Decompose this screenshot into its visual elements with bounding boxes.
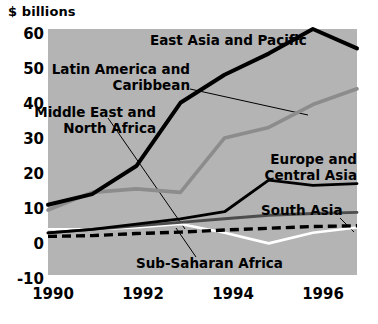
annotation-europe-line1: Europe and [212, 152, 357, 167]
annotation-east-asia-and-pacific: East Asia and Pacific [150, 33, 307, 48]
annotation-sub-saharan-africa: Sub-Saharan Africa [136, 256, 283, 271]
annotation-mena-line1: Middle East and [0, 105, 156, 120]
annotation-south-asia: South Asia [261, 203, 343, 218]
chart-container: $ billions 60 50 40 30 20 10 0 -10 1990 … [0, 0, 378, 324]
annotation-latin-america-line1: Latin America and [30, 62, 190, 77]
series-line-sub-saharan-africa [48, 224, 357, 243]
annotation-mena-line2: North Africa [0, 121, 156, 136]
leader-line-latin-america [190, 89, 308, 115]
annotation-europe-line2: Central Asia [212, 168, 357, 183]
annotation-latin-america-line2: Caribbean [30, 78, 190, 93]
